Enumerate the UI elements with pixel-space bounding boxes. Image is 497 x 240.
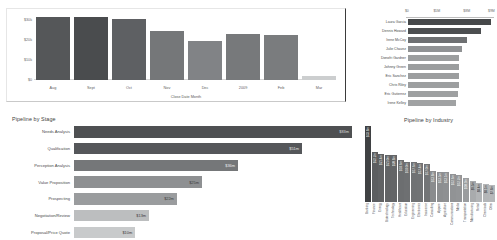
industry-bar[interactable]: $13.8m	[430, 171, 436, 202]
stage-bar[interactable]: $22m	[74, 193, 177, 205]
industry-bar-column[interactable]: $22.2m	[372, 126, 378, 202]
stage-row[interactable]: Value Proposition$25m	[4, 176, 352, 188]
industry-bar[interactable]: $12.2m	[456, 175, 462, 202]
industry-bar[interactable]: $22.2m	[372, 152, 378, 202]
industry-bar[interactable]: $21.4m	[378, 154, 384, 202]
stage-row[interactable]: Negotiation/Review$13m	[4, 210, 352, 222]
owners-row[interactable]: Eric Gutierrez	[362, 91, 494, 97]
owners-bar[interactable]	[408, 19, 491, 25]
industry-bar[interactable]: $17.0m	[424, 164, 430, 202]
industry-bar-column[interactable]: $9.5m	[470, 126, 476, 202]
deal-size-bar[interactable]	[302, 76, 336, 80]
deal-size-bar-column[interactable]	[302, 14, 336, 80]
owners-bar[interactable]	[408, 64, 459, 70]
industry-bar-column[interactable]: $17.6m	[411, 126, 417, 202]
deal-size-bar-column[interactable]	[226, 14, 260, 80]
industry-bar[interactable]: $18.6m	[398, 160, 404, 202]
industry-bar[interactable]: $20.8m	[391, 155, 397, 202]
industry-bar-column[interactable]: $18.6m	[398, 126, 404, 202]
owners-row[interactable]: Irene Kelley	[362, 100, 494, 106]
industry-bar[interactable]: $17.6m	[411, 162, 417, 202]
owners-bar[interactable]	[408, 73, 459, 79]
stage-row[interactable]: Proposal/Price Quote$10m	[4, 227, 352, 239]
industry-bar[interactable]: $33.8m	[365, 126, 371, 202]
stage-row[interactable]: Needs Analysis$83m	[4, 126, 352, 138]
industry-bar-column[interactable]: $17.4m	[417, 126, 423, 202]
deal-size-bar[interactable]	[150, 31, 184, 80]
industry-bar[interactable]: $21.0m	[385, 155, 391, 202]
industry-bar[interactable]: $12.6m	[450, 174, 456, 202]
stage-bar[interactable]: $36m	[74, 160, 238, 172]
industry-bar-column[interactable]: $7.8m	[489, 126, 495, 202]
stage-bar[interactable]: $10m	[74, 227, 135, 239]
industry-bar-column[interactable]: $8.1m	[483, 126, 489, 202]
stage-row[interactable]: Qualification$51m	[4, 143, 352, 155]
stage-row[interactable]: Prospecting$22m	[4, 193, 352, 205]
owners-row[interactable]: Chris Riley	[362, 82, 494, 88]
industry-bar-column[interactable]: $12.2m	[456, 126, 462, 202]
owners-row[interactable]: Donofri Gardner	[362, 55, 494, 61]
deal-size-bar-column[interactable]	[264, 14, 298, 80]
industry-bar-column[interactable]: $20.8m	[391, 126, 397, 202]
industry-bar[interactable]: $8.4m	[476, 183, 482, 202]
deal-size-bar[interactable]	[226, 34, 260, 80]
deal-size-bar[interactable]	[264, 35, 298, 80]
deal-size-bar[interactable]	[36, 17, 70, 80]
owners-row[interactable]: Eric Sanchez	[362, 73, 494, 79]
stage-name-label: Value Proposition	[4, 180, 74, 185]
industry-bar-column[interactable]: $12.6m	[450, 126, 456, 202]
stage-row[interactable]: Perception Analysis$36m	[4, 160, 352, 172]
deal-size-bar-column[interactable]	[36, 14, 70, 80]
industry-value-label: $8.4m	[477, 184, 481, 192]
owners-row[interactable]: Johnny Green	[362, 64, 494, 70]
pipeline-by-stage-bars: Needs Analysis$83mQualification$51mPerce…	[4, 126, 352, 238]
owners-row[interactable]: Irene McCoy	[362, 37, 494, 43]
owners-bar[interactable]	[408, 91, 458, 97]
owners-row[interactable]: Dennis Howard	[362, 28, 494, 34]
stage-bar[interactable]: $25m	[74, 176, 202, 188]
deal-size-bar-column[interactable]	[112, 14, 146, 80]
deal-size-bar-column[interactable]	[74, 14, 108, 80]
industry-bar[interactable]: $9.5m	[470, 181, 476, 202]
owners-bar[interactable]	[408, 55, 459, 61]
deal-size-bar[interactable]	[188, 41, 222, 80]
deal-size-bar-column[interactable]	[188, 14, 222, 80]
industry-bar[interactable]: $13.5m	[437, 172, 443, 202]
industry-bar-column[interactable]: $21.0m	[385, 126, 391, 202]
stage-bar-track: $13m	[74, 210, 352, 222]
deal-size-bar[interactable]	[112, 19, 146, 80]
industry-bar-column[interactable]: $18.0m	[404, 126, 410, 202]
industry-bar[interactable]: $7.8m	[489, 185, 495, 202]
deal-size-bar[interactable]	[74, 17, 108, 80]
stage-bar[interactable]: $13m	[74, 210, 149, 222]
industry-value-label: $8.1m	[484, 185, 488, 193]
industry-bar[interactable]: $8.1m	[483, 184, 489, 202]
owners-bar[interactable]	[408, 37, 467, 43]
industry-bar[interactable]: $10.9m	[463, 178, 469, 202]
industry-bar[interactable]: $18.0m	[404, 162, 410, 202]
owners-bar[interactable]	[408, 46, 462, 52]
industry-bar-column[interactable]: $33.8m	[365, 126, 371, 202]
industry-bar-column[interactable]: $17.0m	[424, 126, 430, 202]
owners-row[interactable]: Julie Chavez	[362, 46, 494, 52]
stage-bar[interactable]: $51m	[74, 143, 302, 155]
industry-bar[interactable]: $13.1m	[443, 172, 449, 202]
industry-bar-column[interactable]: $8.4m	[476, 126, 482, 202]
deal-size-bar-column[interactable]	[150, 14, 184, 80]
industry-bar-column[interactable]: $13.1m	[443, 126, 449, 202]
stage-bar[interactable]: $83m	[74, 126, 352, 138]
industry-bar-column[interactable]: $13.5m	[437, 126, 443, 202]
stage-value-label: $13m	[136, 213, 146, 218]
industry-bar-column[interactable]: $13.8m	[430, 126, 436, 202]
owners-bar[interactable]	[408, 82, 459, 88]
owners-bar[interactable]	[408, 28, 481, 34]
industry-bar-column[interactable]: $21.4m	[378, 126, 384, 202]
stage-bar-track: $10m	[74, 227, 352, 239]
industry-bar-column[interactable]: $10.9m	[463, 126, 469, 202]
owners-row[interactable]: Laura Garcia	[362, 19, 494, 25]
industry-bar[interactable]: $17.4m	[417, 163, 423, 202]
owners-bar[interactable]	[408, 100, 456, 106]
owners-bar-track	[408, 37, 494, 43]
owners-x-tick: $8M	[463, 9, 470, 13]
industry-value-label: $10.9m	[464, 179, 468, 189]
